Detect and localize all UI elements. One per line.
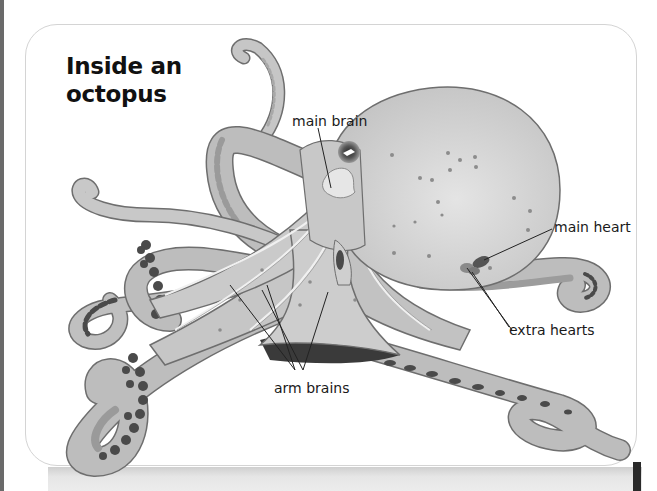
arm-upper-curl <box>237 45 278 141</box>
label-extra-hearts: extra hearts <box>509 322 595 338</box>
extra-heart-organ <box>468 267 480 275</box>
page-title-line1: Inside an <box>66 52 182 80</box>
label-main-heart: main heart <box>554 219 631 235</box>
page-title: Inside an octopus <box>66 52 182 108</box>
siphon-opening <box>336 250 344 270</box>
label-main-brain: main brain <box>292 113 367 129</box>
label-arm-brains: arm brains <box>274 380 349 396</box>
page-title-line2: octopus <box>66 80 182 108</box>
